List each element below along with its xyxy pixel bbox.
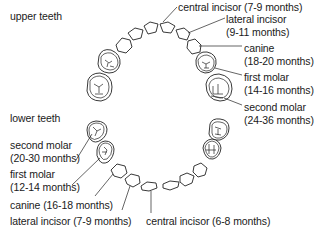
upper-central-incisor-left xyxy=(144,22,158,34)
upper-canine-age: (18-20 months) xyxy=(244,55,314,67)
upper-second-molar-name: second molar xyxy=(244,101,306,113)
lower-central-incisor-label: central incisor (6-8 months) xyxy=(146,215,270,227)
lower-lateral-incisor-left xyxy=(125,174,140,187)
lower-first-molar-age: (12-14 months) xyxy=(10,181,80,193)
upper-lateral-incisor-right xyxy=(176,28,190,40)
upper-second-molar-age: (24-36 months) xyxy=(244,114,314,126)
upper-teeth-label: upper teeth xyxy=(10,10,62,22)
upper-arch xyxy=(87,22,232,101)
leader-lines xyxy=(72,7,242,213)
upper-central-incisor-label: central incisor (7-9 months) xyxy=(178,1,302,13)
lower-lateral-incisor-right xyxy=(180,173,194,186)
lower-canine-label: canine (16-18 months) xyxy=(10,199,113,211)
lower-central-incisor-right xyxy=(163,181,179,190)
lower-first-molar-right xyxy=(203,139,221,159)
upper-first-molar-age: (14-16 months) xyxy=(244,84,314,96)
lower-central-incisor-left xyxy=(141,182,157,191)
lower-teeth-label: lower teeth xyxy=(10,112,60,124)
upper-canine-left xyxy=(116,38,132,53)
lower-second-molar-age: (20-30 months) xyxy=(10,152,80,164)
upper-canine-right xyxy=(187,39,201,54)
lower-first-molar-name: first molar xyxy=(10,168,55,180)
upper-lateral-incisor-age: (9-11 months) xyxy=(226,26,289,38)
lower-canine-left xyxy=(111,164,127,178)
lower-lateral-incisor-label: lateral incisor (7-9 months) xyxy=(10,215,132,227)
upper-lateral-incisor-name: lateral incisor xyxy=(226,13,286,25)
upper-first-molar-name: first molar xyxy=(244,71,289,83)
upper-canine-name: canine xyxy=(244,42,274,54)
upper-lateral-incisor-left xyxy=(128,28,143,40)
lower-second-molar-name: second molar xyxy=(10,139,72,151)
lower-canine-right xyxy=(193,163,207,177)
upper-central-incisor-right xyxy=(160,22,175,33)
